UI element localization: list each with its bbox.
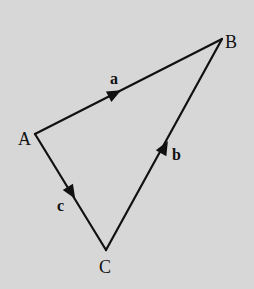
edge-a-AB: [35, 39, 222, 134]
diagram-canvas: A B C a b c: [0, 0, 254, 289]
vector-label-c: c: [57, 197, 64, 214]
arrowhead-a-icon: [106, 85, 124, 102]
point-label-A: A: [18, 129, 31, 149]
arrowhead-c-icon: [63, 184, 81, 202]
point-label-B: B: [225, 32, 237, 52]
vector-label-a: a: [110, 70, 118, 87]
vector-label-b: b: [172, 146, 181, 163]
point-label-C: C: [99, 257, 111, 277]
vector-triangle-diagram: A B C a b c: [0, 0, 254, 289]
